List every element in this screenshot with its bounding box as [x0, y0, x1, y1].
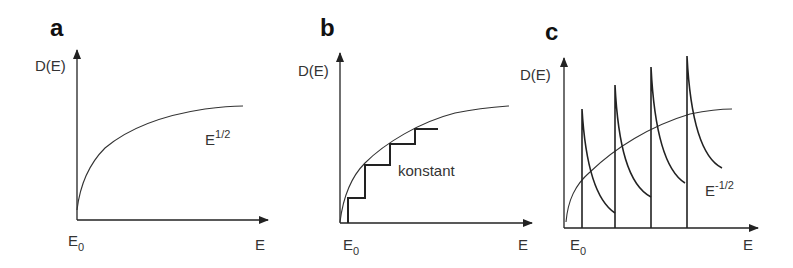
panel-label-c: c	[545, 18, 558, 45]
dos-diagram: a D(E) E E0 E1/2 b D(E) E E0 konstant c …	[0, 0, 793, 268]
ylabel-c: D(E)	[520, 66, 551, 83]
origin-label-b: E0	[343, 236, 359, 257]
curve-label-c: E-1/2	[705, 179, 734, 199]
spike-2-c	[615, 85, 651, 228]
ylabel-a: D(E)	[35, 57, 66, 74]
origin-label-c: E0	[570, 236, 586, 257]
origin-label-a: E0	[68, 232, 84, 253]
step-label-b: konstant	[398, 162, 456, 179]
panel-a: a D(E) E E0 E1/2	[35, 14, 268, 253]
panel-c: c D(E) E E0 E-1/2	[520, 18, 758, 257]
ylabel-b: D(E)	[298, 62, 329, 79]
panel-label-b: b	[320, 14, 335, 41]
curve-sqrt-c	[566, 109, 732, 222]
spike-1-c	[582, 109, 615, 228]
panel-label-a: a	[50, 14, 64, 41]
xlabel-b: E	[518, 236, 528, 253]
panel-b: b D(E) E E0 konstant	[298, 14, 532, 257]
xlabel-a: E	[255, 236, 265, 253]
curve-label-a: E1/2	[205, 128, 230, 148]
spike-4-c	[687, 56, 722, 228]
spike-3-c	[651, 67, 685, 228]
xlabel-c: E	[743, 236, 753, 253]
curve-sqrt-a	[77, 106, 243, 210]
